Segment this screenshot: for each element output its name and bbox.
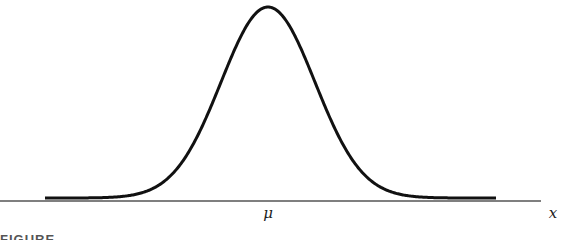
figure-caption: FIGURE <box>0 233 55 240</box>
normal-distribution-chart: μ x <box>0 0 567 240</box>
x-axis-label: x <box>549 204 558 222</box>
mu-label: μ <box>263 204 273 222</box>
bell-curve <box>45 7 496 198</box>
